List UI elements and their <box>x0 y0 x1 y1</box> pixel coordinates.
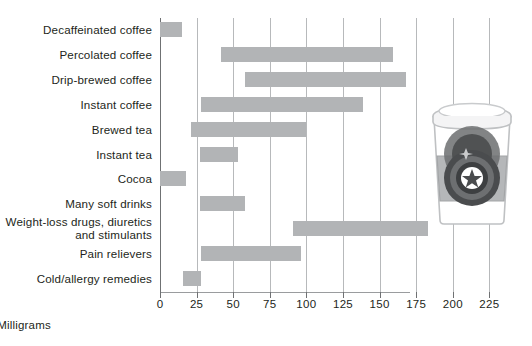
bar <box>201 246 301 261</box>
bar-row: Pain relievers <box>0 242 532 269</box>
category-label: Pain relievers <box>0 247 152 260</box>
bar <box>200 196 245 211</box>
tick-label-0: 0 <box>157 298 164 310</box>
coffee-cup-illustration <box>420 96 524 226</box>
bar-row: Decaffeinated coffee <box>0 18 532 45</box>
tick-label-225: 225 <box>479 298 499 310</box>
tick-label-125: 125 <box>333 298 353 310</box>
bar <box>221 47 392 62</box>
bar-row: Cold/allergy remedies <box>0 267 532 294</box>
category-label: Percolated coffee <box>0 48 152 61</box>
bar <box>160 171 186 186</box>
category-label: Instant coffee <box>0 98 152 111</box>
tick-label-175: 175 <box>406 298 426 310</box>
bar <box>245 72 406 87</box>
category-label: Weight-loss drugs, diuretics and stimula… <box>0 215 152 241</box>
coffee-cup-icon <box>420 96 524 226</box>
category-label: Instant tea <box>0 148 152 161</box>
caffeine-range-chart: 0255075100125150175200225 Decaffeinated … <box>0 0 532 346</box>
tick-label-50: 50 <box>226 298 239 310</box>
tick-label-100: 100 <box>296 298 316 310</box>
x-axis-title: Milligrams <box>0 319 532 331</box>
bar <box>160 22 182 37</box>
category-label: Drip-brewed coffee <box>0 73 152 86</box>
bar <box>183 271 201 286</box>
bar <box>191 122 307 137</box>
bar-row: Percolated coffee <box>0 43 532 70</box>
x-axis-title-label: Milligrams <box>0 319 51 331</box>
category-label: Decaffeinated coffee <box>0 23 152 36</box>
category-label: Cold/allergy remedies <box>0 272 152 285</box>
category-label: Many soft drinks <box>0 197 152 210</box>
tick-label-200: 200 <box>443 298 463 310</box>
category-label: Cocoa <box>0 172 152 185</box>
bar <box>293 221 428 236</box>
bar <box>201 97 364 112</box>
category-label: Brewed tea <box>0 123 152 136</box>
tick-label-25: 25 <box>190 298 203 310</box>
bar <box>200 147 238 162</box>
tick-label-75: 75 <box>263 298 276 310</box>
tick-label-150: 150 <box>370 298 390 310</box>
bar-row: Drip-brewed coffee <box>0 68 532 95</box>
